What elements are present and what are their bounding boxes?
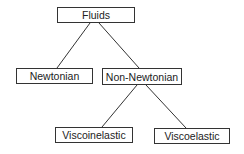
edge-fluids-newtonian [57, 23, 90, 68]
node-label: Viscoinelastic [62, 129, 125, 141]
edge-non-newtonian-viscoinelastic [102, 85, 137, 127]
node-label: Non-Newtonian [106, 71, 178, 83]
node-label: Viscoelastic [164, 130, 219, 142]
edge-non-newtonian-viscoelastic [146, 85, 186, 128]
node-non-newtonian: Non-Newtonian [102, 68, 182, 85]
node-viscoinelastic: Viscoinelastic [55, 127, 133, 143]
node-newtonian: Newtonian [16, 68, 93, 84]
node-label: Fluids [82, 9, 110, 21]
edge-fluids-non-newtonian [99, 23, 139, 68]
node-fluids: Fluids [57, 7, 135, 23]
node-label: Newtonian [30, 70, 80, 82]
node-viscoelastic: Viscoelastic [154, 128, 230, 144]
